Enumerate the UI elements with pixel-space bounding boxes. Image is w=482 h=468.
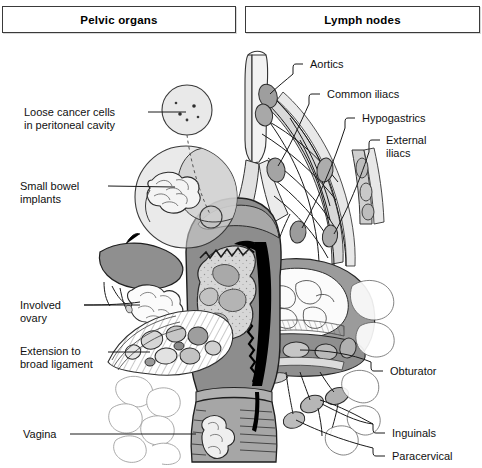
label-extension-to-broad-ligament: Extension to broad ligament bbox=[20, 345, 130, 370]
leader-hypogastrics-elbow bbox=[345, 118, 355, 128]
pelvic-lymph-node-diagram: Pelvic organs Lymph nodes bbox=[0, 0, 482, 468]
vagina bbox=[191, 398, 277, 463]
leader-obturator-elbow bbox=[371, 362, 383, 371]
label-loose-cancer-cells: Loose cancer cells in peritoneal cavity bbox=[24, 106, 148, 131]
leader-aortics-elbow bbox=[293, 64, 303, 74]
label-external-iliacs: External iliacs bbox=[386, 134, 466, 159]
label-involved-ovary: Involved ovary bbox=[20, 299, 100, 324]
label-paracervical: Paracervical bbox=[392, 450, 482, 463]
magnifier-loose-cancer-cells bbox=[162, 85, 212, 135]
leader-common-iliacs-elbow bbox=[309, 94, 320, 104]
anatomy-illustration bbox=[0, 0, 482, 468]
node-inguinal-1 bbox=[298, 392, 326, 416]
label-aortics: Aortics bbox=[310, 58, 400, 71]
label-common-iliacs: Common iliacs bbox=[327, 88, 437, 101]
label-obturator: Obturator bbox=[390, 365, 480, 378]
label-vagina: Vagina bbox=[23, 428, 93, 441]
leader-paracervical-elbow bbox=[373, 448, 385, 456]
label-inguinals: Inguinals bbox=[392, 427, 482, 440]
label-hypogastrics: Hypogastrics bbox=[362, 112, 472, 125]
small-bowel-loops-left bbox=[109, 376, 181, 464]
label-small-bowel-implants: Small bowel implants bbox=[20, 180, 120, 205]
node-paracervical bbox=[281, 409, 307, 431]
leader-aortics bbox=[270, 74, 293, 94]
